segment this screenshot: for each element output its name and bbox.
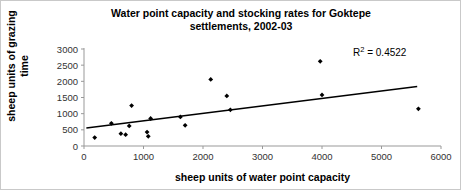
data-point-marker xyxy=(183,123,188,128)
data-point-marker xyxy=(318,59,323,64)
data-point-marker xyxy=(123,132,128,137)
x-axis-ticks: 0100020003000400050006000 xyxy=(81,146,451,162)
data-point-marker xyxy=(118,131,123,136)
x-tick-label: 2000 xyxy=(192,151,213,162)
data-point-marker xyxy=(127,124,132,129)
chart-figure: Water point capacity and stocking rates … xyxy=(0,0,461,190)
y-tick-label: 1000 xyxy=(57,108,78,119)
data-point-marker xyxy=(92,135,97,140)
y-tick-label: 3000 xyxy=(57,44,78,55)
data-point-marker xyxy=(208,77,213,82)
data-points xyxy=(92,59,420,140)
x-tick-label: 6000 xyxy=(430,151,451,162)
data-point-marker xyxy=(145,130,150,135)
y-tick-label: 2000 xyxy=(57,76,78,87)
data-point-marker xyxy=(416,106,421,111)
y-axis-ticks: 050010001500200025003000 xyxy=(57,44,84,152)
x-tick-label: 5000 xyxy=(371,151,392,162)
y-tick-label: 500 xyxy=(62,124,78,135)
y-tick-label: 1500 xyxy=(57,92,78,103)
x-tick-label: 4000 xyxy=(311,151,332,162)
linear-trendline xyxy=(86,87,417,129)
data-point-marker xyxy=(320,93,325,98)
plot-area: 050010001500200025003000 010002000300040… xyxy=(1,1,461,190)
x-tick-label: 1000 xyxy=(133,151,154,162)
data-point-marker xyxy=(146,134,151,139)
data-point-marker xyxy=(224,93,229,98)
y-tick-label: 0 xyxy=(73,141,78,152)
y-tick-label: 2500 xyxy=(57,60,78,71)
x-tick-label: 0 xyxy=(81,151,86,162)
data-point-marker xyxy=(129,103,134,108)
x-tick-label: 3000 xyxy=(252,151,273,162)
